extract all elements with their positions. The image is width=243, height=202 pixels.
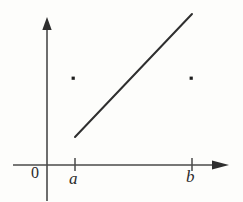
- point-marker-left: [72, 77, 75, 80]
- origin-label: 0: [31, 165, 39, 181]
- line-segment: [75, 14, 192, 137]
- point-marker-right: [190, 77, 193, 80]
- x-axis-arrowhead: [212, 161, 229, 170]
- figure-container: 0 a b: [0, 0, 243, 202]
- y-axis-arrowhead: [42, 17, 51, 30]
- x-tick-label-b: b: [186, 168, 195, 185]
- x-tick-label-a: a: [69, 170, 78, 187]
